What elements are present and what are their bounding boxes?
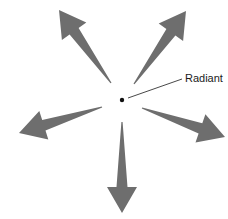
arrow-left-icon: [19, 106, 102, 139]
radiant-label: Radiant: [185, 73, 223, 84]
radiant-point: [120, 98, 124, 102]
arrow-upper-right-icon: [134, 11, 187, 84]
arrow-right-icon: [142, 107, 225, 142]
arrow-down-icon: [107, 122, 137, 213]
radiant-diagram: Radiant: [0, 0, 228, 219]
meteor-arrows: [19, 10, 225, 213]
arrow-upper-left-icon: [59, 10, 112, 83]
diagram-canvas: [0, 0, 228, 219]
